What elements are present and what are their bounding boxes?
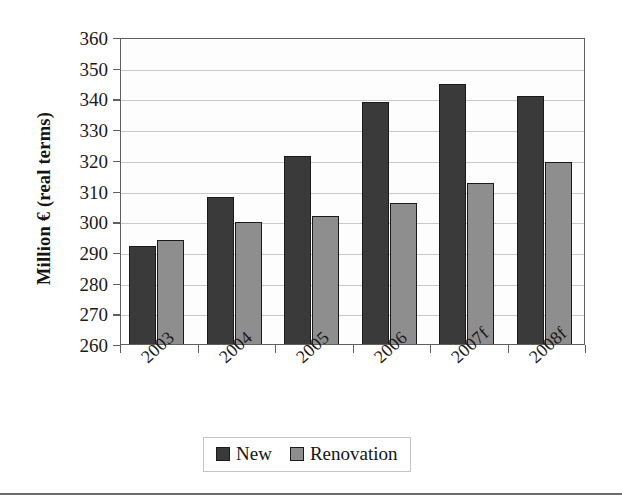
bar-renovation-2007f [467,183,494,345]
y-axis-tick-label: 350 [62,60,108,79]
bar-new-2006 [362,102,389,345]
x-axis-tick-mark [353,345,354,353]
y-axis-tick-label: 320 [62,152,108,171]
gridline [121,162,584,163]
bar-chart-figure: Million € (real terms) 36035034033032031… [0,0,622,503]
legend-swatch-icon-renovation [290,447,304,461]
y-axis-tick-label: 260 [62,336,108,355]
x-axis-tick-mark [275,345,276,353]
plot-area [120,38,585,345]
y-axis-tick-mark [113,314,120,315]
y-axis-tick-mark [113,99,120,100]
y-axis-title: Million € (real terms) [34,69,55,329]
y-axis-tick-mark [113,222,120,223]
y-axis-tick-label: 270 [62,305,108,324]
legend-entry-new: New [216,443,272,465]
y-axis-tick-label: 360 [62,29,108,48]
y-axis-tick-mark [113,130,120,131]
y-axis-tick-mark [113,192,120,193]
legend-swatch-icon-new [216,447,230,461]
y-axis-tick-label: 280 [62,275,108,294]
bar-new-2007f [439,84,466,346]
legend-label: New [236,443,272,465]
legend-label: Renovation [310,443,398,465]
gridline [121,223,584,224]
y-axis-tick-mark [113,69,120,70]
bar-renovation-2008f [545,162,572,345]
x-axis-tick-mark [430,345,431,353]
page-divider-rule [0,493,622,495]
y-axis-tick-mark [113,38,120,39]
bar-renovation-2006 [390,203,417,345]
gridline [121,315,584,316]
y-axis-tick-label: 330 [62,121,108,140]
x-axis-tick-mark [198,345,199,353]
legend-entry-renovation: Renovation [290,443,398,465]
y-axis-tick-mark [113,253,120,254]
x-axis-tick-mark [508,345,509,353]
bar-new-2004 [207,197,234,345]
bar-new-2003 [129,246,156,345]
gridline [121,131,584,132]
y-axis-tick-mark [113,284,120,285]
bar-new-2008f [517,96,544,345]
bar-new-2005 [284,156,311,345]
y-axis-tick-label: 340 [62,90,108,109]
chart-legend: NewRenovation [203,437,411,472]
gridline [121,254,584,255]
y-axis-tick-mark [113,161,120,162]
gridline [121,193,584,194]
y-axis-tick-mark [113,345,120,346]
y-axis-tick-label: 300 [62,213,108,232]
bar-renovation-2004 [235,222,262,345]
x-axis-tick-mark [120,345,121,353]
y-axis-tick-label: 290 [62,244,108,263]
bar-renovation-2005 [312,216,339,345]
x-axis-tick-mark [585,345,586,353]
y-axis-tick-label: 310 [62,183,108,202]
gridline [121,285,584,286]
gridline [121,100,584,101]
gridline [121,70,584,71]
